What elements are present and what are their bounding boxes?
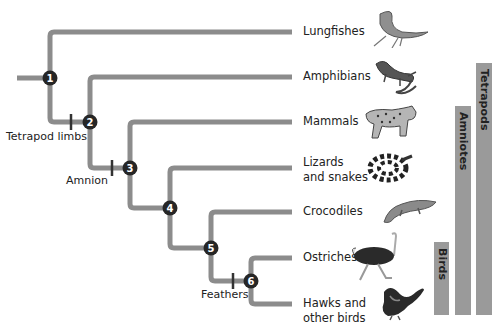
taxon-amphibians: Amphibians — [303, 69, 371, 84]
clade-bar-tetrapods: Tetrapods — [476, 63, 492, 315]
snake-icon — [366, 150, 414, 184]
node-2: 2 — [83, 115, 98, 130]
branch-mammals — [130, 122, 292, 168]
node-3: 3 — [123, 161, 138, 176]
taxon-crocodiles: Crocodiles — [303, 204, 363, 219]
trait-label-amnion: Amnion — [66, 174, 108, 187]
bobcat-icon — [362, 102, 420, 142]
taxon-hawks-line2: other birds — [303, 311, 366, 326]
node-1: 1 — [43, 71, 58, 86]
crocodile-icon — [382, 192, 438, 228]
node-5: 5 — [204, 241, 219, 256]
branch-node2-node3 — [90, 122, 130, 168]
clade-label-amniotes: Amniotes — [457, 112, 470, 170]
salamander-icon — [372, 58, 424, 98]
taxon-mammals: Mammals — [303, 114, 359, 129]
branch-lizards — [170, 168, 292, 208]
ostrich-icon — [346, 230, 406, 286]
taxon-lizards-line1: Lizards — [303, 155, 368, 170]
trait-label-tetrapod-limbs: Tetrapod limbs — [6, 130, 87, 143]
hawk-icon — [376, 282, 426, 322]
clade-label-birds: Birds — [435, 248, 448, 280]
branch-lungfishes — [50, 32, 292, 78]
clade-label-tetrapods: Tetrapods — [478, 69, 491, 130]
taxon-lungfishes: Lungfishes — [303, 24, 365, 39]
trait-label-feathers: Feathers — [201, 288, 249, 301]
lungfish-icon — [372, 6, 432, 48]
branch-amphibians — [90, 77, 292, 122]
node-6: 6 — [244, 274, 259, 289]
taxon-hawks-line1: Hawks and — [303, 296, 366, 311]
taxon-lizards-line2: and snakes — [303, 170, 368, 185]
clade-bar-amniotes: Amniotes — [455, 106, 471, 315]
taxon-lizards-and-snakes: Lizards and snakes — [303, 155, 368, 185]
clade-bar-birds: Birds — [434, 242, 449, 315]
branch-crocodiles — [211, 212, 292, 248]
taxon-hawks-and-other-birds: Hawks and other birds — [303, 296, 366, 326]
node-4: 4 — [163, 201, 178, 216]
